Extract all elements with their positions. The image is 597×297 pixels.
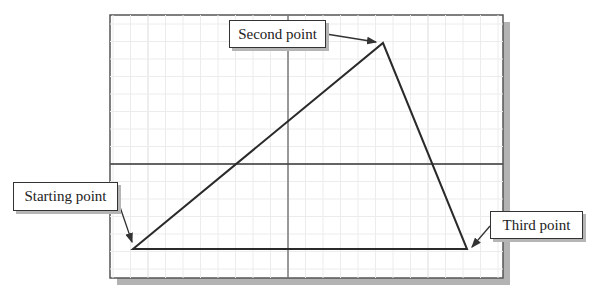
third-point-label: Third point [490,211,583,239]
starting-point-label: Starting point [13,182,118,211]
second-point-label: Second point [229,20,326,48]
